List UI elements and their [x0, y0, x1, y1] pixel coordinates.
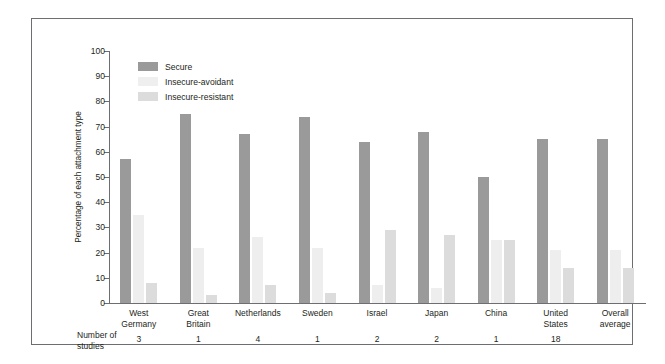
bar[interactable] [563, 268, 574, 303]
x-axis-category-label: GreatBritain [169, 308, 229, 329]
number-of-studies-value: 1 [466, 334, 526, 344]
bar[interactable] [385, 230, 396, 303]
y-axis-tick-label: 50 [96, 172, 105, 182]
bar[interactable] [206, 295, 217, 303]
bar[interactable] [252, 237, 263, 303]
chart-frame: Percentage of each attachment type 01020… [31, 18, 633, 345]
y-axis-tick-label: 40 [96, 197, 105, 207]
x-axis-category-label: Japan [407, 308, 467, 319]
bar[interactable] [418, 132, 429, 303]
y-axis-tick-label: 80 [96, 96, 105, 106]
bar[interactable] [610, 250, 621, 303]
number-of-studies-value: 18 [526, 334, 586, 344]
number-of-studies-value: 1 [169, 334, 229, 344]
bar-group [359, 51, 396, 303]
bar[interactable] [491, 240, 502, 303]
plot-area [109, 51, 645, 303]
number-of-studies-value: 4 [228, 334, 288, 344]
y-axis-tick-label: 60 [96, 147, 105, 157]
x-axis-category-label-line: Netherlands [228, 308, 288, 319]
bar[interactable] [537, 139, 548, 303]
number-of-studies-value: 1 [288, 334, 348, 344]
bar[interactable] [597, 139, 608, 303]
y-axis-title: Percentage of each attachment type [74, 111, 83, 243]
y-axis-tick-label: 10 [96, 273, 105, 283]
y-axis-tick-label: 30 [96, 222, 105, 232]
x-axis-category-label: Netherlands [228, 308, 288, 319]
x-axis-line [109, 303, 646, 304]
bar-group [299, 51, 336, 303]
bar[interactable] [299, 117, 310, 303]
bar[interactable] [239, 134, 250, 303]
bar[interactable] [133, 215, 144, 303]
x-axis-category-label-line: United [526, 308, 586, 319]
bar[interactable] [550, 250, 561, 303]
bar-group [239, 51, 276, 303]
bar[interactable] [504, 240, 515, 303]
x-axis-category-label-line: States [526, 319, 586, 330]
x-axis-category-label-line: average [585, 319, 645, 330]
bar-group [418, 51, 455, 303]
x-axis-category-label: Israel [347, 308, 407, 319]
bar[interactable] [265, 285, 276, 303]
x-axis-category-label: WestGermany [109, 308, 169, 329]
number-of-studies-value: 2 [347, 334, 407, 344]
bar[interactable] [444, 235, 455, 303]
bar[interactable] [146, 283, 157, 303]
x-axis-category-label-line: China [466, 308, 526, 319]
x-axis-category-label-line: Israel [347, 308, 407, 319]
bar-group [180, 51, 217, 303]
x-axis-category-label: Sweden [288, 308, 348, 319]
y-axis-tick-label: 90 [96, 71, 105, 81]
y-axis-tick-label: 100 [91, 46, 105, 56]
bar[interactable] [120, 159, 131, 303]
x-axis-category-label-line: Japan [407, 308, 467, 319]
bar[interactable] [193, 248, 204, 303]
number-of-studies-value: 2 [407, 334, 467, 344]
bar[interactable] [372, 285, 383, 303]
bar-group [597, 51, 634, 303]
bar[interactable] [325, 293, 336, 303]
x-axis-category-label-line: Overall [585, 308, 645, 319]
x-axis-category-label: UnitedStates [526, 308, 586, 329]
x-axis-category-label-line: West [109, 308, 169, 319]
y-axis-tick-label: 20 [96, 248, 105, 258]
x-axis-category-label-line: Germany [109, 319, 169, 330]
bar[interactable] [312, 248, 323, 303]
bar-group [537, 51, 574, 303]
number-of-studies-value: 3 [109, 334, 169, 344]
bar-group [478, 51, 515, 303]
bar[interactable] [359, 142, 370, 303]
bar-group [120, 51, 157, 303]
x-axis-category-label: Overallaverage [585, 308, 645, 329]
x-axis-category-label-line: Great [169, 308, 229, 319]
bar[interactable] [180, 114, 191, 303]
bar[interactable] [478, 177, 489, 303]
bar[interactable] [431, 288, 442, 303]
x-axis-category-label: China [466, 308, 526, 319]
x-axis-category-label-line: Sweden [288, 308, 348, 319]
x-axis-category-label-line: Britain [169, 319, 229, 330]
y-axis-tick-label: 0 [100, 298, 105, 308]
y-axis-tick-label: 70 [96, 122, 105, 132]
bar[interactable] [623, 268, 634, 303]
